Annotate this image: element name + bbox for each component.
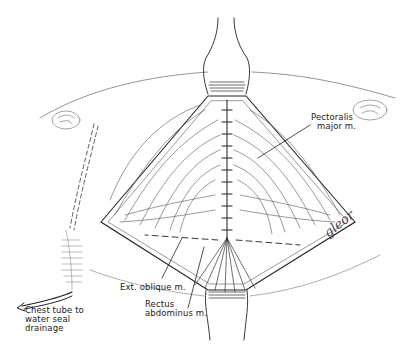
leader-pectoralis: [258, 125, 310, 158]
label-pectoralis: Pectoralis major m.: [311, 113, 356, 131]
leader-rectus: [188, 247, 204, 308]
skin-contour-right: [252, 72, 395, 98]
label-pectoralis-line2: major m.: [311, 122, 356, 131]
label-chest-tube-line3: drainage: [25, 324, 84, 333]
label-rectus: Rectus abdominus m.: [145, 300, 207, 318]
neck-left: [204, 18, 218, 94]
drainage-arrow-icon: [17, 303, 25, 311]
label-ext-oblique: Ext. oblique m.: [120, 283, 186, 292]
right-flap-suture: [236, 240, 300, 245]
chest-tube-exit-hatch: [66, 230, 72, 290]
chest-tube: [70, 124, 98, 230]
neck-right: [234, 18, 250, 94]
surgical-illustration: [0, 0, 403, 347]
label-chest-tube: Chest tube to water seal drainage: [25, 306, 84, 333]
abdomen-right: [244, 290, 248, 340]
nipple-right: [353, 100, 387, 120]
nipple-left: [52, 111, 80, 129]
label-rectus-line2: abdominus m.: [145, 309, 207, 318]
